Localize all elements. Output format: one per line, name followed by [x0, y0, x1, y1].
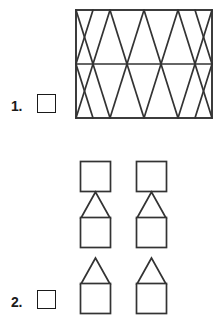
problem-1-answer-box[interactable] — [37, 94, 56, 113]
left-column-square-top — [81, 162, 111, 192]
problem-1-number: 1. — [11, 99, 22, 113]
right-column-square-top — [137, 162, 167, 192]
diamond-lattice-rectangle-icon — [75, 9, 213, 119]
left-column-triangle-upper — [81, 192, 110, 218]
worksheet-page: 1. — [0, 0, 222, 318]
right-column-triangle-upper — [137, 192, 166, 218]
left-column-square-bottom — [81, 284, 111, 314]
problem-2-number: 2. — [11, 295, 22, 309]
left-column-triangle-lower — [81, 258, 110, 284]
right-column-square-middle — [137, 218, 167, 248]
right-column-square-bottom — [137, 284, 167, 314]
problem-2-figure — [76, 158, 171, 318]
problem-1-figure — [75, 9, 213, 119]
left-column-square-middle — [81, 218, 111, 248]
problem-2-answer-box[interactable] — [37, 290, 56, 309]
square-triangle-chain-icon — [76, 158, 171, 318]
right-column-triangle-lower — [137, 258, 166, 284]
